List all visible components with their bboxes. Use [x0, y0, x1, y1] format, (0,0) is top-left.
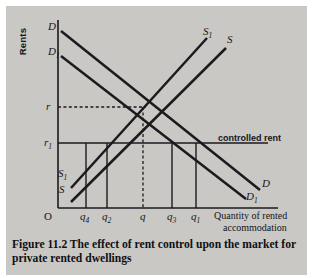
x-axis-title-line2: accommodation: [223, 222, 287, 233]
x-tick-label-q2: q2: [102, 211, 111, 225]
curve-label-supply-bottom: S: [59, 184, 65, 195]
rent-control-supply-demand-chart: [6, 6, 307, 235]
curve-label-supply-shifted-bottom: S1: [58, 168, 67, 182]
curve-label-supply-top: S: [227, 34, 233, 45]
figure-diagram-panel: Rents O r r1 D D1 S1 S S1 S D D1 control…: [6, 6, 307, 235]
curve-label-demand-shifted-top: D1: [48, 46, 60, 60]
controlled-rent-annotation: controlled rent: [218, 133, 281, 143]
origin-label: O: [44, 211, 52, 222]
figure-caption-panel: Figure 11.2 The effect of rent control u…: [6, 235, 307, 275]
figure-caption: Figure 11.2 The effect of rent control u…: [12, 238, 302, 266]
curve-label-demand-shifted-bottom: D1: [246, 191, 258, 205]
curve-label-demand-bottom: D: [262, 178, 270, 189]
price-level-r-label: r: [46, 101, 50, 112]
curve-label-demand-top: D: [48, 21, 56, 32]
supply-curve-S1: [71, 38, 207, 188]
supply-curve-S: [71, 48, 226, 202]
x-axis-title-line1: Quantity of rented: [214, 210, 287, 221]
x-tick-label-q4: q4: [80, 211, 89, 225]
demand-curve-D1: [61, 56, 246, 199]
price-level-r1-label: r1: [44, 137, 52, 151]
x-tick-label-q: q: [140, 211, 146, 222]
curve-label-supply-shifted-top: S1: [203, 26, 212, 40]
x-tick-label-q1: q1: [191, 211, 200, 225]
x-tick-label-q3: q3: [167, 211, 176, 225]
figure-page: Rents O r r1 D D1 S1 S S1 S D D1 control…: [0, 0, 313, 278]
y-axis-title: Rents: [17, 16, 28, 68]
